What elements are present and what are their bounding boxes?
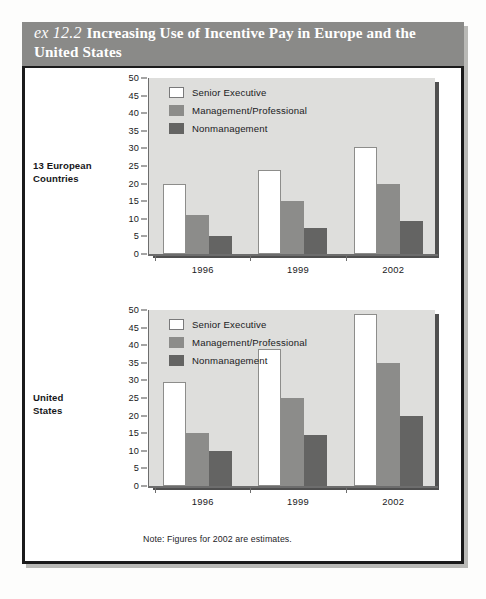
y-axis-tick-label: 5 <box>134 231 139 241</box>
y-axis-tick-label: 45 <box>128 91 139 101</box>
y-axis-tick-mark <box>141 166 147 167</box>
bar-1996-nonmanagement <box>209 451 232 486</box>
bar-2002-senior-executive <box>354 314 377 486</box>
bar-1996-management-professional <box>186 215 209 254</box>
x-axis-tick-label: 1999 <box>287 264 309 275</box>
bar-2002-senior-executive <box>354 147 377 254</box>
x-axis-tick-label: 2002 <box>382 264 404 275</box>
y-axis-tick-mark <box>141 486 147 487</box>
y-axis-tick-mark <box>141 380 147 381</box>
legend-label: Senior Executive <box>192 87 266 98</box>
legend-swatch-nonmgmt <box>169 123 184 134</box>
y-axis-tick-mark <box>141 433 147 434</box>
legend-swatch-mgmt <box>169 337 184 348</box>
y-axis-tick-mark <box>141 78 147 79</box>
bar-1996-senior-executive <box>163 382 186 486</box>
legend-swatch-senior <box>169 319 184 330</box>
legend-swatch-senior <box>169 87 184 98</box>
chart-legend: Senior ExecutiveManagement/ProfessionalN… <box>169 316 307 370</box>
legend-label: Nonmanagement <box>192 123 268 134</box>
legend-item: Management/Professional <box>169 102 307 118</box>
y-axis-tick-mark <box>141 113 147 114</box>
y-axis-tick-mark <box>141 310 147 311</box>
y-axis-tick-label: 30 <box>128 375 139 385</box>
y-axis-tick-mark <box>141 183 147 184</box>
exhibit-header-band: ex 12.2Increasing Use of Incentive Pay i… <box>22 22 464 66</box>
legend-label: Nonmanagement <box>192 355 268 366</box>
exhibit-header-text: ex 12.2Increasing Use of Incentive Pay i… <box>22 24 464 64</box>
y-axis-line <box>148 78 149 256</box>
y-axis-tick-label: 50 <box>128 305 139 315</box>
legend-label: Senior Executive <box>192 319 266 330</box>
bar-1996-nonmanagement <box>209 236 232 254</box>
y-axis-tick-mark <box>141 130 147 131</box>
bar-2002-management-professional <box>377 363 400 486</box>
plot-wrapper-europe: 05101520253035404550199619992002Senior E… <box>121 78 441 264</box>
side-label-line-2: Countries <box>33 173 117 186</box>
y-axis-tick-label: 30 <box>128 143 139 153</box>
exhibit-number: ex 12.2 <box>34 24 87 41</box>
y-axis: 05101520253035404550 <box>121 78 147 254</box>
bar-1996-senior-executive <box>163 184 186 254</box>
y-axis-tick-label: 0 <box>134 481 139 491</box>
legend-label: Management/Professional <box>192 337 307 348</box>
bar-1999-nonmanagement <box>304 228 327 254</box>
y-axis-tick-label: 15 <box>128 428 139 438</box>
bar-1999-nonmanagement <box>304 435 327 486</box>
x-axis-tick-label: 1999 <box>287 496 309 507</box>
y-axis-tick-label: 20 <box>128 179 139 189</box>
x-axis-tick-mark <box>346 487 347 493</box>
exhibit-page: ex 12.2Increasing Use of Incentive Pay i… <box>0 0 486 599</box>
y-axis-tick-mark <box>141 415 147 416</box>
bar-1996-management-professional <box>186 433 209 486</box>
panel-side-label-us: United States <box>33 392 117 418</box>
y-axis-tick-label: 10 <box>128 214 139 224</box>
y-axis-line <box>148 310 149 488</box>
side-label-line-2: States <box>33 405 117 418</box>
y-axis-tick-label: 15 <box>128 196 139 206</box>
bar-1999-management-professional <box>281 201 304 254</box>
y-axis-tick-label: 20 <box>128 411 139 421</box>
y-axis-tick-mark <box>141 468 147 469</box>
legend-label: Management/Professional <box>192 105 307 116</box>
exhibit-body-panel: 13 European Countries 051015202530354045… <box>22 66 464 564</box>
y-axis-tick-mark <box>141 345 147 346</box>
y-axis-tick-mark <box>141 218 147 219</box>
chart-panel-europe: 13 European Countries 051015202530354045… <box>25 74 461 292</box>
plot-wrapper-us: 05101520253035404550199619992002Senior E… <box>121 310 441 496</box>
legend-item: Management/Professional <box>169 334 307 350</box>
x-axis-tick-mark <box>250 487 251 493</box>
x-axis-tick-mark <box>155 487 156 493</box>
y-axis-tick-label: 0 <box>134 249 139 259</box>
x-axis-tick-mark <box>346 255 347 261</box>
y-axis-tick-label: 10 <box>128 446 139 456</box>
x-axis-line <box>148 486 438 488</box>
x-axis-tick-label: 2002 <box>382 496 404 507</box>
side-label-line-1: 13 European <box>33 160 117 173</box>
bar-2002-management-professional <box>377 184 400 254</box>
y-axis-tick-mark <box>141 254 147 255</box>
y-axis-tick-mark <box>141 148 147 149</box>
y-axis-tick-label: 35 <box>128 358 139 368</box>
chart-legend: Senior ExecutiveManagement/ProfessionalN… <box>169 84 307 138</box>
chart-panel-us: United States 05101520253035404550199619… <box>25 306 461 524</box>
bar-1999-senior-executive <box>258 170 281 254</box>
x-axis-tick-label: 1996 <box>192 264 214 275</box>
side-label-line-1: United <box>33 392 117 405</box>
chart-footnote: Note: Figures for 2002 are estimates. <box>143 534 292 544</box>
x-axis-tick-mark <box>250 255 251 261</box>
legend-item: Nonmanagement <box>169 352 307 368</box>
y-axis-tick-label: 40 <box>128 108 139 118</box>
y-axis-tick-mark <box>141 450 147 451</box>
panel-side-label-europe: 13 European Countries <box>33 160 117 186</box>
legend-item: Senior Executive <box>169 316 307 332</box>
legend-item: Senior Executive <box>169 84 307 100</box>
y-axis-tick-mark <box>141 236 147 237</box>
legend-swatch-nonmgmt <box>169 355 184 366</box>
bar-2002-nonmanagement <box>400 416 423 486</box>
y-axis-tick-label: 40 <box>128 340 139 350</box>
y-axis-tick-mark <box>141 201 147 202</box>
y-axis-tick-label: 50 <box>128 73 139 83</box>
exhibit-title: Increasing Use of Incentive Pay in Europ… <box>34 24 416 60</box>
y-axis-tick-mark <box>141 327 147 328</box>
